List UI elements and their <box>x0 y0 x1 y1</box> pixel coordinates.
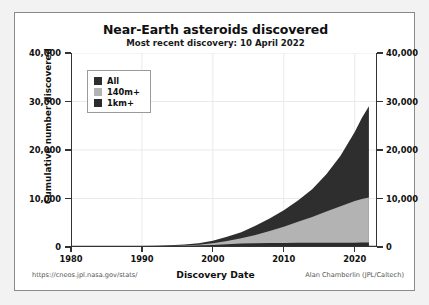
legend-label-all: All <box>107 76 119 86</box>
y-tick-left <box>65 101 71 102</box>
legend-swatch-1km <box>94 99 102 107</box>
x-tick-label: 2020 <box>325 254 385 264</box>
y-tick-left <box>65 198 71 199</box>
x-tick-label: 2010 <box>254 254 314 264</box>
stacked-areas <box>71 106 369 247</box>
chart-title: Near-Earth asteroids discovered <box>15 22 416 37</box>
y-tick-left <box>65 149 71 150</box>
legend-label-1km: 1km+ <box>107 98 134 108</box>
x-tick <box>354 247 355 252</box>
x-tick <box>70 247 71 252</box>
y-axis-title: Cumulative number discovered <box>43 31 53 221</box>
y-tick-label-right: 20,000 <box>386 145 429 155</box>
y-tick-label-left: 40,000 <box>13 48 61 58</box>
x-tick <box>141 247 142 252</box>
legend-item-1km: 1km+ <box>94 97 140 108</box>
y-tick-label-right: 40,000 <box>386 48 429 58</box>
legend-swatch-all <box>94 77 102 85</box>
legend-item-140m: 140m+ <box>94 86 140 97</box>
y-tick-label-left: 20,000 <box>13 145 61 155</box>
y-tick-right <box>377 198 383 199</box>
legend-label-140m: 140m+ <box>107 87 140 97</box>
y-tick-label-right: 0 <box>386 242 429 252</box>
y-tick-label-left: 10,000 <box>13 194 61 204</box>
chart-figure: Near-Earth asteroids discovered Most rec… <box>14 12 415 291</box>
y-tick-label-right: 10,000 <box>386 194 429 204</box>
y-tick-right <box>377 52 383 53</box>
legend-item-all: All <box>94 75 140 86</box>
y-tick-right <box>377 149 383 150</box>
x-tick-label: 1990 <box>112 254 172 264</box>
x-tick-label: 2000 <box>183 254 243 264</box>
y-tick-right <box>377 246 383 247</box>
chart-subtitle: Most recent discovery: 10 April 2022 <box>15 38 416 48</box>
left-axis-spine <box>71 53 72 247</box>
x-tick <box>283 247 284 252</box>
x-tick-label: 1980 <box>41 254 101 264</box>
credit-text: Alan Chamberlin (JPL/Caltech) <box>305 271 404 279</box>
y-tick-label-right: 30,000 <box>386 97 429 107</box>
y-tick-label-left: 30,000 <box>13 97 61 107</box>
legend-swatch-140m <box>94 88 102 96</box>
y-tick-label-left: 0 <box>13 242 61 252</box>
chart-legend: All 140m+ 1km+ <box>87 70 151 113</box>
source-url-text: https://cneos.jpl.nasa.gov/stats/ <box>32 271 137 279</box>
y-tick-right <box>377 101 383 102</box>
x-tick <box>212 247 213 252</box>
y-tick-left <box>65 52 71 53</box>
